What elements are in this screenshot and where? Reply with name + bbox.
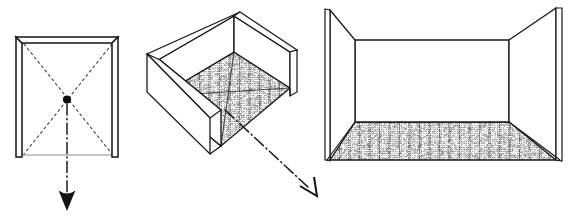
panel-perspective [325, 8, 562, 161]
plan-wall-right [112, 37, 118, 157]
panel-axonometric [147, 12, 297, 154]
persp-left-front-edge [325, 9, 330, 160]
axono-arrow-shaft [225, 110, 309, 188]
persp-wall-back [355, 40, 509, 122]
persp-right-front-edge [556, 8, 562, 161]
plan-arrow-head [59, 191, 76, 212]
plan-center-dot [63, 95, 71, 103]
figure-root: Room construction sequence: plan, axonom… [0, 0, 573, 219]
room-sequence-drawing: Room construction sequence: plan, axonom… [0, 0, 573, 219]
plan-wall-left [16, 37, 22, 157]
axono-bottom-edge-left [210, 146, 221, 154]
plan-transition-arrow [59, 104, 76, 211]
plan-wall-top [16, 37, 118, 43]
axono-outer-face-right [290, 50, 297, 96]
axono-arrow-head [300, 177, 317, 196]
